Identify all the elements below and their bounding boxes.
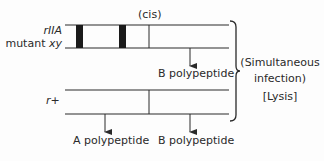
- top-chromosome: [65, 25, 229, 66]
- r-plus-label: r+: [46, 95, 60, 107]
- bottom-chromosome: [65, 90, 229, 132]
- mutant-xy-label: mutant xy: [0, 38, 62, 50]
- top-b-polypeptide-label: B polypeptide: [158, 68, 234, 80]
- rIIA-label: rIIA: [0, 25, 62, 37]
- bottom-a-polypeptide-label: A polypeptide: [73, 135, 149, 147]
- mutant-xy-text: mutant xy: [5, 37, 62, 50]
- bottom-b-polypeptide-label: B polypeptide: [158, 135, 234, 147]
- infection-label: infection): [240, 73, 320, 85]
- xy-italic-text: xy: [49, 37, 62, 50]
- cis-label: (cis): [138, 9, 161, 21]
- mutation-y-block: [119, 25, 126, 48]
- diagram-canvas: rIIA mutant xy (cis) B polypeptide r+ A …: [0, 0, 324, 161]
- mutation-x-block: [76, 25, 83, 48]
- simultaneous-label: (Simultaneous: [240, 57, 320, 69]
- lysis-label: [Lysis]: [240, 91, 320, 103]
